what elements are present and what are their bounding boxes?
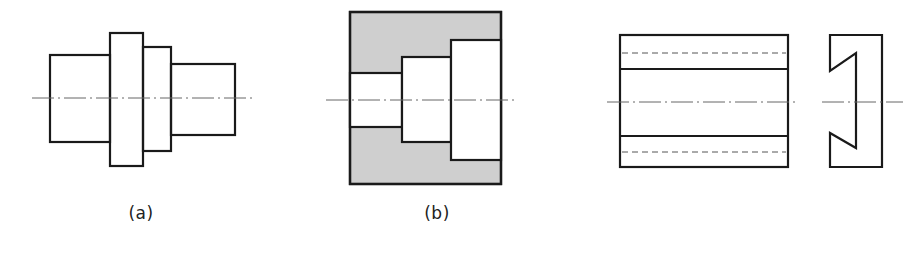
technical-drawing-canvas [0,0,923,263]
shaft-step-3 [143,47,171,151]
front-view-outline [620,35,788,167]
figure-label-a: (a) [128,203,153,223]
figure-label-b: (b) [424,203,450,223]
figure-a-stepped-shaft [32,33,253,166]
shaft-step-4 [171,64,235,135]
figure-b-sectioned-bore [326,12,515,184]
side-view-dovetail-profile [830,35,882,167]
figure-c-dovetail-views [607,35,903,167]
shaft-step-2 [110,33,143,166]
